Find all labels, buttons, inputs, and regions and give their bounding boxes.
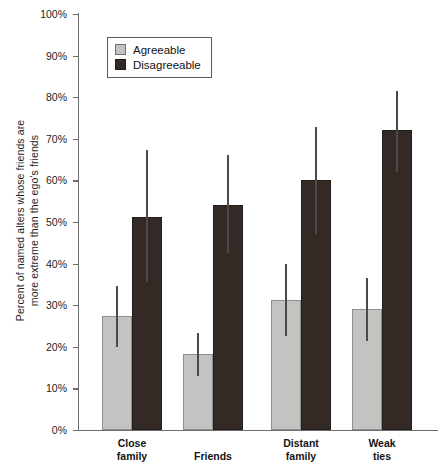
y-tick-label: 20% — [46, 341, 67, 353]
bar-chart: Percent of named alters whose friends ar… — [0, 0, 446, 473]
legend-swatch-agreeable-icon — [115, 44, 126, 55]
error-bar-weak-ties-disagreeable — [396, 91, 397, 172]
x-category-label-line: Distant — [256, 437, 346, 450]
y-tick-mark — [73, 139, 78, 140]
y-tick-mark — [73, 264, 78, 265]
x-category-label-weak-ties: Weakties — [337, 437, 427, 463]
error-bar-distant-family-agreeable — [285, 264, 286, 337]
y-axis-title-line-1: Percent of named alters whose friends ar… — [15, 119, 29, 320]
y-tick-mark — [73, 180, 78, 181]
bar-weak-ties-disagreeable — [382, 130, 412, 430]
x-category-label-close-family: Closefamily — [87, 437, 177, 463]
y-tick-label: 80% — [46, 91, 67, 103]
error-bar-close-family-disagreeable — [146, 150, 147, 282]
y-axis-title-line-2: more extreme than the ego's friends — [28, 119, 42, 320]
y-tick-label: 40% — [46, 258, 67, 270]
error-bar-close-family-agreeable — [116, 286, 117, 346]
error-bar-friends-agreeable — [197, 333, 198, 376]
y-tick-mark — [73, 305, 78, 306]
y-tick-label: 90% — [46, 50, 67, 62]
legend-swatch-disagreeable-icon — [115, 59, 126, 70]
y-tick-label: 70% — [46, 133, 67, 145]
y-tick-mark — [73, 388, 78, 389]
legend-item-agreeable: Agreeable — [115, 42, 201, 57]
y-tick-mark — [73, 430, 78, 431]
y-axis-title: Percent of named alters whose friends ar… — [8, 0, 48, 440]
y-tick-label: 100% — [40, 8, 67, 20]
x-category-label-line: Friends — [168, 450, 258, 463]
x-category-label-distant-family: Distantfamily — [256, 437, 346, 463]
x-category-label-line: ties — [337, 450, 427, 463]
y-tick-label: 30% — [46, 299, 67, 311]
error-bar-distant-family-disagreeable — [315, 127, 316, 234]
y-tick-mark — [73, 222, 78, 223]
x-category-label-line: family — [87, 450, 177, 463]
x-category-label-line: family — [256, 450, 346, 463]
y-tick-label: 0% — [52, 424, 67, 436]
y-tick-mark — [73, 347, 78, 348]
x-category-label-line: Close — [87, 437, 177, 450]
y-tick-mark — [73, 97, 78, 98]
error-bar-friends-disagreeable — [227, 155, 228, 253]
y-tick-label: 60% — [46, 174, 67, 186]
legend-label-disagreeable: Disagreeable — [133, 59, 201, 71]
x-category-label-friends: Friends — [168, 450, 258, 463]
error-bar-weak-ties-agreeable — [366, 278, 367, 340]
legend: Agreeable Disagreeable — [107, 37, 212, 78]
legend-item-disagreeable: Disagreeable — [115, 57, 201, 72]
y-tick-mark — [73, 14, 78, 15]
y-tick-label: 50% — [46, 216, 67, 228]
y-tick-label: 10% — [46, 382, 67, 394]
x-category-label-line: Weak — [337, 437, 427, 450]
y-tick-mark — [73, 56, 78, 57]
legend-label-agreeable: Agreeable — [133, 44, 185, 56]
